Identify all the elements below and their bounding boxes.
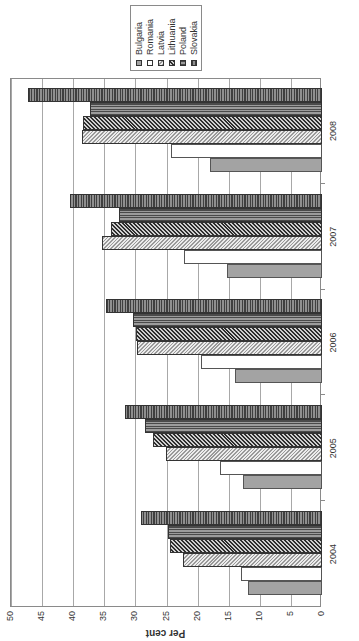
- figure-caption-clipped: [352, 311, 359, 611]
- legend-swatch-icon: [136, 60, 142, 66]
- legend-item-poland: Poland: [177, 10, 188, 66]
- gridline: [104, 79, 105, 606]
- bar-romania-2005: [220, 461, 322, 475]
- x-tick-label: 2004: [328, 524, 338, 584]
- legend-label: Latvia: [156, 31, 166, 55]
- x-tick-label: 2006: [328, 313, 338, 373]
- bar-romania-2008: [171, 144, 322, 158]
- legend-label: Romania: [145, 19, 155, 55]
- bar-slovakia-2008: [28, 88, 322, 102]
- y-tick-label: 50: [5, 611, 15, 633]
- gridline: [11, 79, 12, 606]
- legend-item-lithuania: Lithuania: [166, 10, 177, 66]
- bar-poland-2004: [168, 525, 322, 539]
- legend-swatch-icon: [180, 60, 186, 66]
- bar-poland-2006: [133, 314, 322, 328]
- bar-latvia-2004: [183, 553, 322, 567]
- x-tick-label: 2005: [328, 418, 338, 478]
- y-tick-label: 10: [254, 611, 264, 633]
- bar-bulgaria-2008: [210, 158, 322, 172]
- chart-legend: BulgariaRomaniaLatviaLithuaniaPolandSlov…: [130, 5, 202, 71]
- bar-lithuania-2007: [111, 222, 322, 236]
- bar-bulgaria-2006: [235, 370, 322, 384]
- legend-item-romania: Romania: [144, 10, 155, 66]
- gridline: [73, 79, 74, 606]
- x-tick-label: 2008: [328, 101, 338, 161]
- legend-swatch-icon: [147, 60, 153, 66]
- legend-item-latvia: Latvia: [155, 10, 166, 66]
- bar-lithuania-2008: [83, 116, 322, 130]
- legend-swatch-icon: [169, 60, 175, 66]
- bar-romania-2004: [241, 567, 322, 581]
- bar-latvia-2008: [82, 130, 322, 144]
- y-tick-label: 45: [36, 611, 46, 633]
- gridline: [135, 79, 136, 606]
- bar-romania-2006: [201, 356, 322, 370]
- rotated-chart-figure: Per cent BulgariaRomaniaLatviaLithuaniaP…: [0, 0, 359, 641]
- x-tick-mark: [321, 289, 325, 290]
- bar-bulgaria-2005: [243, 475, 322, 489]
- y-tick-label: 25: [161, 611, 171, 633]
- legend-label: Bulgaria: [134, 22, 144, 55]
- bar-latvia-2006: [137, 342, 322, 356]
- bar-poland-2005: [145, 419, 322, 433]
- plot-area: [10, 78, 321, 607]
- bar-romania-2007: [184, 250, 322, 264]
- y-tick-label: 0: [316, 611, 326, 633]
- bar-lithuania-2005: [153, 433, 322, 447]
- legend-swatch-icon: [191, 60, 197, 66]
- legend-label: Lithuania: [167, 18, 177, 55]
- bar-latvia-2005: [166, 447, 322, 461]
- bar-poland-2008: [90, 102, 322, 116]
- y-tick-label: 5: [285, 611, 295, 633]
- gridline: [42, 79, 43, 606]
- bar-latvia-2007: [102, 236, 322, 250]
- bar-slovakia-2006: [106, 300, 322, 314]
- bar-slovakia-2007: [70, 194, 322, 208]
- legend-item-bulgaria: Bulgaria: [133, 10, 144, 66]
- y-tick-label: 20: [192, 611, 202, 633]
- bar-slovakia-2004: [141, 511, 322, 525]
- y-tick-label: 40: [67, 611, 77, 633]
- bar-lithuania-2006: [136, 328, 322, 342]
- bar-poland-2007: [119, 208, 322, 222]
- y-tick-label: 35: [98, 611, 108, 633]
- x-tick-mark: [321, 394, 325, 395]
- bar-bulgaria-2007: [227, 264, 322, 278]
- legend-label: Slovakia: [189, 21, 199, 55]
- x-tick-mark: [321, 500, 325, 501]
- y-tick-label: 15: [223, 611, 233, 633]
- y-tick-label: 30: [129, 611, 139, 633]
- legend-item-slovakia: Slovakia: [188, 10, 199, 66]
- x-tick-label: 2007: [328, 207, 338, 267]
- legend-swatch-icon: [158, 60, 164, 66]
- bar-slovakia-2005: [125, 405, 322, 419]
- bar-bulgaria-2004: [248, 581, 322, 595]
- legend-label: Poland: [178, 27, 188, 55]
- bar-lithuania-2004: [170, 539, 322, 553]
- x-tick-mark: [321, 183, 325, 184]
